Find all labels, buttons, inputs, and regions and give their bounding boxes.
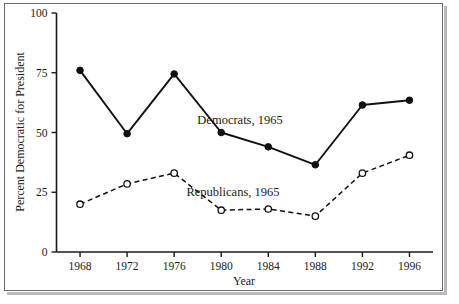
y-axis-title: Percent Democratic for President bbox=[13, 52, 27, 212]
x-axis-tick-labels: 19681972197619801984198819921996 bbox=[69, 260, 422, 272]
line-chart: 0255075100 19681972197619801984198819921… bbox=[0, 0, 459, 304]
data-point-1984 bbox=[265, 144, 272, 151]
y-tick-label-50: 50 bbox=[36, 127, 48, 139]
data-point-1992 bbox=[359, 102, 366, 109]
data-point-1972 bbox=[124, 130, 131, 137]
data-point-1972 bbox=[124, 181, 130, 187]
data-point-1980 bbox=[218, 129, 225, 136]
y-tick-label-100: 100 bbox=[30, 7, 48, 19]
x-tick-label-1984: 1984 bbox=[257, 260, 280, 272]
x-tick-label-1980: 1980 bbox=[210, 260, 233, 272]
data-point-1984 bbox=[265, 206, 271, 212]
data-point-1968 bbox=[77, 67, 84, 74]
x-tick-label-1968: 1968 bbox=[69, 260, 92, 272]
data-point-1996 bbox=[406, 152, 412, 158]
y-tick-label-25: 25 bbox=[36, 186, 48, 198]
data-point-1976 bbox=[171, 71, 178, 78]
series-label-democrats: Democrats, 1965 bbox=[197, 113, 282, 127]
data-point-1988 bbox=[312, 213, 318, 219]
data-point-1976 bbox=[171, 170, 177, 176]
data-point-1968 bbox=[77, 201, 83, 207]
y-tick-label-75: 75 bbox=[36, 67, 48, 79]
x-tick-label-1988: 1988 bbox=[304, 260, 327, 272]
series-label-republicans: Republicans, 1965 bbox=[186, 185, 279, 199]
data-point-1980 bbox=[218, 207, 224, 213]
y-axis-tick-labels: 0255075100 bbox=[30, 7, 48, 258]
data-point-1988 bbox=[312, 161, 319, 168]
x-axis-title: Year bbox=[233, 274, 255, 288]
x-tick-label-1972: 1972 bbox=[116, 260, 139, 272]
x-tick-label-1976: 1976 bbox=[163, 260, 186, 272]
figure-container: 0255075100 19681972197619801984198819921… bbox=[0, 0, 459, 304]
x-tick-label-1992: 1992 bbox=[351, 260, 374, 272]
data-point-1992 bbox=[359, 170, 365, 176]
x-tick-label-1996: 1996 bbox=[398, 260, 421, 272]
y-tick-label-0: 0 bbox=[42, 246, 48, 258]
data-point-1996 bbox=[406, 97, 413, 104]
